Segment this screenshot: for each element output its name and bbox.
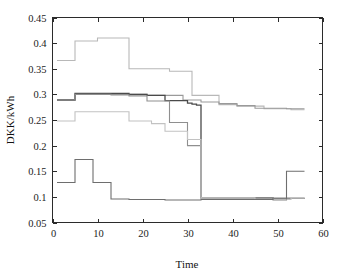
chart-figure: 01020304050600.050.10.150.20.250.30.350.… bbox=[0, 0, 342, 279]
x-tick-label-0: 0 bbox=[51, 228, 56, 239]
y-tick-label-8: 0.45 bbox=[28, 13, 46, 24]
y-tick-label-1: 0.1 bbox=[33, 192, 46, 203]
y-tick-label-4: 0.25 bbox=[28, 115, 46, 126]
x-tick-label-1: 10 bbox=[93, 228, 104, 239]
y-tick-label-6: 0.35 bbox=[28, 64, 46, 75]
line-chart: 01020304050600.050.10.150.20.250.30.350.… bbox=[0, 0, 342, 279]
x-tick-label-6: 60 bbox=[318, 228, 329, 239]
y-tick-label-3: 0.2 bbox=[33, 141, 46, 152]
y-tick-label-0: 0.05 bbox=[28, 218, 46, 229]
x-tick-label-3: 30 bbox=[183, 228, 194, 239]
x-tick-label-5: 50 bbox=[273, 228, 284, 239]
y-tick-label-5: 0.3 bbox=[33, 89, 46, 100]
x-axis-title: Time bbox=[176, 258, 199, 270]
y-tick-label-7: 0.4 bbox=[33, 38, 47, 49]
y-axis-title: DKK/kWh bbox=[4, 95, 16, 144]
x-tick-label-4: 40 bbox=[228, 228, 239, 239]
y-tick-label-2: 0.15 bbox=[28, 166, 46, 177]
x-tick-label-2: 20 bbox=[138, 228, 149, 239]
